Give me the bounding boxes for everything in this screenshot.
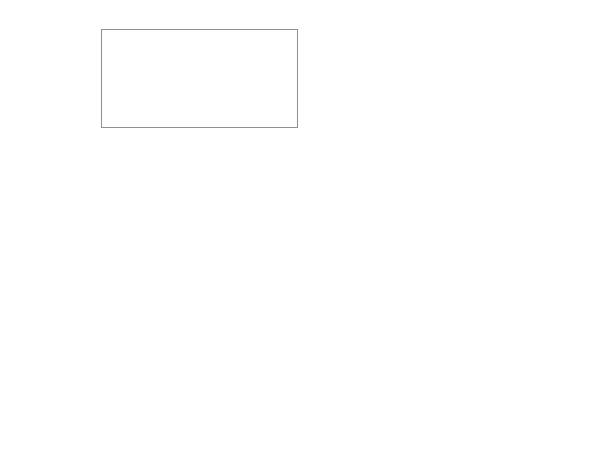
- event-legend-box: [101, 29, 298, 128]
- two-panel-figure: [0, 0, 590, 454]
- bottom-panel-y-axis-title: [16, 283, 29, 413]
- top-panel-y-axis-title: [11, 9, 24, 159]
